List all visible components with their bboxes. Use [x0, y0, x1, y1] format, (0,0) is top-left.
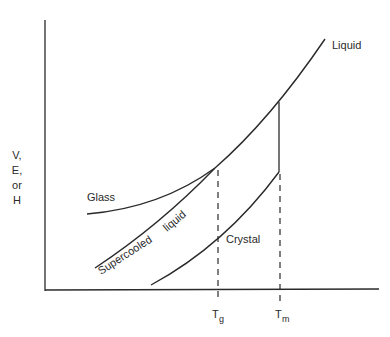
tg-tick-label: T g: [212, 308, 224, 324]
supercooled-label: Supercooled: [96, 233, 154, 277]
tm-tick-sub: m: [282, 314, 290, 324]
phase-diagram: Liquid Glass Crystal Supercooled liquid …: [0, 0, 390, 337]
liquid-curve: [215, 39, 325, 168]
tg-tick-main: T: [212, 308, 219, 320]
x-axis: [45, 289, 379, 290]
crystal-label: Crystal: [226, 233, 260, 245]
tm-tick-main: T: [275, 308, 282, 320]
supercooled-liquid-word-label: liquid: [161, 208, 188, 234]
tm-tick-label: T m: [275, 308, 290, 324]
tg-tick-sub: g: [219, 314, 224, 324]
liquid-label: Liquid: [332, 39, 361, 51]
glass-label: Glass: [87, 191, 116, 203]
supercooled-liquid-curve: [95, 168, 215, 268]
